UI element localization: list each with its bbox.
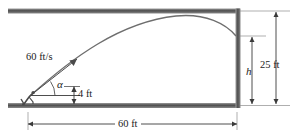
angle-arc — [51, 82, 56, 96]
label-initial-speed: 60 ft/s — [26, 52, 53, 63]
label-wall-height: 25 ft — [260, 60, 280, 71]
figure-container: 60 ft/s α 4 ft 60 ft h 25 ft — [0, 0, 291, 137]
label-nozzle-height: 4 ft — [78, 89, 92, 100]
right-wall — [236, 9, 241, 109]
duct-ceiling — [8, 9, 240, 14]
label-launch-angle: α — [57, 79, 63, 90]
ground-line — [8, 103, 240, 108]
label-impact-height: h — [246, 66, 252, 77]
label-horizontal-span: 60 ft — [115, 119, 141, 130]
